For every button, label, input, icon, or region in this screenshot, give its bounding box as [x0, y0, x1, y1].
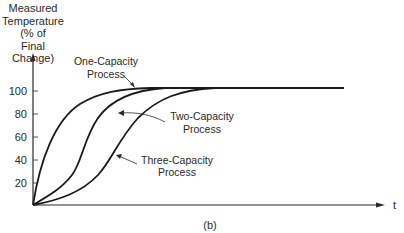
curves [33, 88, 344, 205]
three-capacity-label: Three-Capacity [141, 154, 214, 166]
figure-caption: (b) [203, 219, 216, 231]
one-capacity-curve [33, 88, 344, 205]
three-capacity-label: Process [158, 166, 196, 178]
x-axis-label: t [393, 199, 396, 211]
two-capacity-curve [33, 88, 165, 205]
y-tick-label: 40 [15, 154, 27, 166]
y-tick-label: 100 [9, 85, 27, 97]
y-tick-label: 60 [15, 131, 27, 143]
y-axis-arrow-icon [31, 53, 36, 61]
x-axis-arrow-icon [376, 203, 385, 208]
two-capacity-label: Two-Capacity [170, 110, 234, 122]
y-tick-labels: 100 80 60 40 20 [9, 85, 27, 189]
two-capacity-label: Process [183, 123, 221, 135]
response-curves-chart: 100 80 60 40 20 One-Capacity Process Two… [0, 0, 404, 233]
one-capacity-label: Process [87, 68, 125, 80]
leader-arrow-icon [118, 110, 124, 116]
y-ticks [33, 91, 38, 183]
one-capacity-label: One-Capacity [74, 55, 139, 67]
y-tick-label: 80 [15, 108, 27, 120]
y-tick-label: 20 [15, 177, 27, 189]
